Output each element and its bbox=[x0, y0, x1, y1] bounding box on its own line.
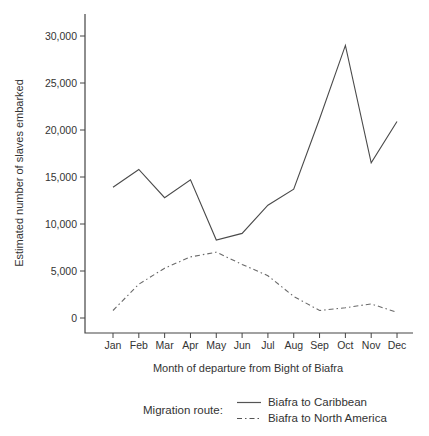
legend-rows: Biafra to Caribbean Biafra to North Amer… bbox=[236, 395, 387, 425]
legend-item-caribbean: Biafra to Caribbean bbox=[236, 395, 387, 409]
axis-lines bbox=[85, 14, 413, 333]
x-tick-label: Dec bbox=[388, 339, 407, 351]
x-tick-label: Sep bbox=[310, 339, 329, 351]
dash-dot-line-key bbox=[236, 414, 262, 423]
legend-item-north-america: Biafra to North America bbox=[236, 411, 387, 425]
y-axis-title: Estimated number of slaves embarked bbox=[13, 79, 25, 267]
chart-figure: 05,00010,00015,00020,00025,00030,000JanF… bbox=[0, 0, 429, 436]
x-tick-label: Mar bbox=[156, 339, 175, 351]
series-line-biafra-to-caribbean bbox=[113, 45, 397, 240]
legend-label-caribbean: Biafra to Caribbean bbox=[268, 396, 367, 408]
x-tick-label: Jan bbox=[105, 339, 122, 351]
legend: Migration route: Biafra to Caribbean Bia… bbox=[143, 395, 387, 425]
x-tick-label: Jul bbox=[261, 339, 274, 351]
y-tick-label: 5,000 bbox=[51, 265, 77, 277]
legend-title: Migration route: bbox=[143, 404, 223, 416]
series-line-biafra-to-north-america bbox=[113, 252, 397, 312]
y-tick-label: 10,000 bbox=[45, 218, 77, 230]
x-tick-label: Oct bbox=[337, 339, 353, 351]
y-tick-label: 30,000 bbox=[45, 30, 77, 42]
x-axis-title: Month of departure from Bight of Biafra bbox=[85, 362, 411, 374]
x-tick-label: Nov bbox=[362, 339, 381, 351]
x-tick-label: Feb bbox=[130, 339, 148, 351]
x-tick-label: Jun bbox=[234, 339, 251, 351]
solid-line-key bbox=[236, 398, 262, 407]
x-tick-label: Apr bbox=[182, 339, 199, 351]
y-tick-label: 0 bbox=[71, 312, 77, 324]
y-tick-label: 25,000 bbox=[45, 77, 77, 89]
legend-label-north-america: Biafra to North America bbox=[268, 412, 387, 424]
y-tick-label: 15,000 bbox=[45, 171, 77, 183]
x-tick-label: May bbox=[206, 339, 227, 351]
y-tick-label: 20,000 bbox=[45, 124, 77, 136]
x-tick-label: Aug bbox=[284, 339, 303, 351]
